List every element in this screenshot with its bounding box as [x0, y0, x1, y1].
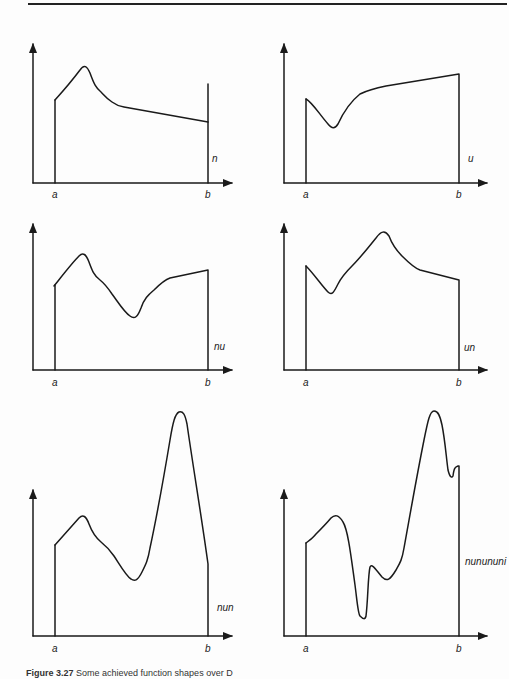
- panel-label-nun: nun: [217, 602, 234, 613]
- panel-label-un: un: [464, 342, 475, 353]
- curve-u: [306, 74, 459, 183]
- curve-n: [55, 66, 208, 122]
- caption-number: Figure 3.27: [26, 668, 74, 678]
- axis-label-b: b: [205, 643, 211, 654]
- function-shapes-figure: [0, 0, 509, 679]
- axis-label-b: b: [456, 377, 462, 388]
- axis-label-a: a: [303, 189, 309, 200]
- axis-label-b: b: [456, 189, 462, 200]
- panel-u: [284, 44, 487, 183]
- axis-label-a: a: [303, 643, 309, 654]
- panel-un: [284, 224, 487, 370]
- panel-n: [33, 44, 232, 183]
- panel-label-u: u: [468, 153, 474, 164]
- curve-un: [306, 232, 459, 370]
- axis-label-a: a: [52, 189, 58, 200]
- figure-page: a b a b a b a b a b a b n u nu un nun nu…: [0, 0, 509, 679]
- panel-nunununi: [284, 411, 487, 636]
- panel-label-nu: nu: [214, 341, 225, 352]
- panel-nu: [33, 224, 232, 370]
- curve-nun: [55, 412, 208, 636]
- axis-label-a: a: [303, 377, 309, 388]
- curve-nunununi: [306, 411, 459, 636]
- axis-label-a: a: [52, 643, 58, 654]
- axis-label-b: b: [205, 189, 211, 200]
- panel-label-nunununi: nunununi: [465, 556, 506, 567]
- curve-nu: [54, 254, 208, 370]
- axis-label-b: b: [456, 643, 462, 654]
- panel-nun: [33, 412, 232, 636]
- caption-text: Some achieved function shapes over D: [76, 668, 233, 678]
- panel-label-n: n: [212, 153, 218, 164]
- axis-label-a: a: [52, 377, 58, 388]
- axis-label-b: b: [205, 377, 211, 388]
- figure-caption: Figure 3.27 Some achieved function shape…: [26, 668, 233, 678]
